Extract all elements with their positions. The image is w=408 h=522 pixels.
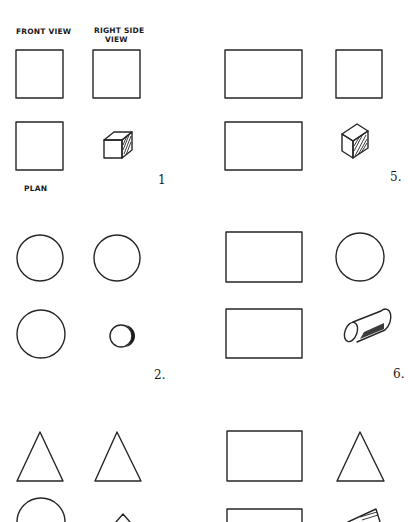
side-view-circle	[94, 235, 140, 281]
front-view-square	[16, 50, 63, 98]
exercise-7-triangular-prism	[227, 431, 384, 522]
front-view-rectangle	[227, 431, 302, 481]
front-view-circle	[17, 235, 63, 281]
side-view-triangle	[95, 432, 141, 481]
exercise-6-cylinder: 6.	[226, 232, 404, 381]
exercise-3-cone	[17, 432, 141, 522]
right-side-view-label-line1: RIGHT SIDE	[94, 26, 144, 35]
rectangular-prism-icon	[342, 124, 368, 158]
exercise-2-sphere: 2.	[17, 235, 165, 382]
plan-view-rectangle	[227, 509, 302, 522]
exercise-number-2: 2.	[154, 368, 165, 382]
orthographic-drawing-sheet: FRONT VIEW RIGHT SIDE VIEW PLAN 1 2.	[0, 0, 408, 522]
side-view-square	[93, 50, 140, 98]
plan-view-rectangle	[225, 122, 302, 170]
exercise-number-5: 5.	[390, 170, 401, 184]
triangular-prism-icon	[348, 509, 380, 522]
plan-label: PLAN	[24, 184, 47, 193]
plan-view-rectangle	[226, 309, 302, 358]
side-view-circle	[336, 233, 384, 281]
exercise-5-rectangular-prism: 5.	[225, 50, 401, 184]
side-view-triangle	[337, 432, 384, 481]
right-side-view-label-line2: VIEW	[105, 35, 128, 44]
cylinder-icon	[342, 309, 391, 343]
front-view-rectangle	[225, 50, 302, 98]
plan-view-square	[16, 122, 63, 170]
plan-view-circle	[17, 498, 65, 522]
exercise-number-6: 6.	[393, 367, 404, 381]
exercise-1-cube: 1	[16, 50, 166, 187]
sphere-icon	[110, 325, 135, 347]
plan-view-circle	[17, 310, 65, 358]
front-view-rectangle	[226, 232, 302, 282]
front-view-triangle	[17, 432, 63, 481]
cube-isometric-icon	[104, 132, 132, 158]
front-view-label: FRONT VIEW	[16, 27, 72, 36]
exercise-number-1: 1	[158, 173, 166, 187]
side-view-square	[336, 50, 382, 98]
cone-icon	[116, 514, 130, 522]
